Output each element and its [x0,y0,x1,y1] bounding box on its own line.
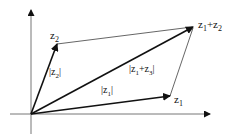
label-z1-plus-z2: z1+z2 [198,18,222,33]
parallelogram-diagram: z2 |z2| |z1| |z1+z3| z1 z1+z2 [0,0,232,136]
label-z2: z2 [50,29,59,44]
label-mod-z1: |z1| [101,84,113,98]
parallelogram-top-side [57,27,192,44]
label-z1: z1 [174,93,183,108]
label-mod-z2: |z2| [49,66,61,80]
vector-z1 [31,96,170,114]
vector-z2 [31,44,57,114]
label-mod-z1-plus-z3: |z1+z3| [129,63,155,77]
